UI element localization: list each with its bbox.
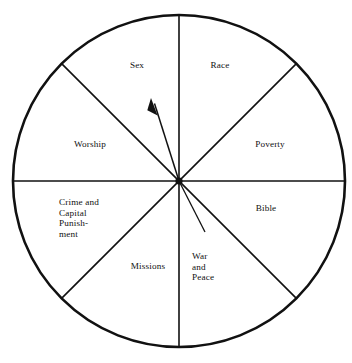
- sector-label-bible: Bible: [235, 203, 297, 214]
- needle-hub: [175, 177, 182, 184]
- sector-label-worship: Worship: [52, 139, 128, 150]
- sector-label-crime-and-capital-punishment: Crime and Capital Punish- ment: [59, 197, 127, 239]
- sector-label-war-and-peace: War and Peace: [192, 251, 246, 283]
- wheel-svg: [0, 0, 352, 363]
- sector-label-poverty: Poverty: [235, 139, 305, 150]
- sector-label-missions: Missions: [113, 261, 183, 272]
- sector-wheel-figure: Sex Race Poverty Bible War and Peace Mis…: [0, 0, 352, 363]
- sector-label-race: Race: [189, 60, 251, 71]
- sector-label-sex: Sex: [106, 60, 168, 71]
